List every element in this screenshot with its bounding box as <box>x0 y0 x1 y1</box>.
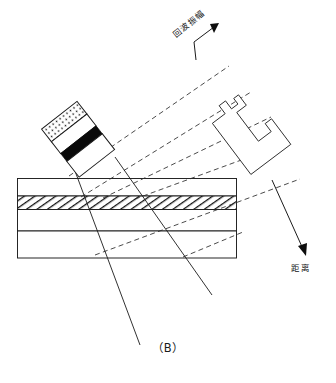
distance-axis-line <box>272 180 303 249</box>
angle-beam-probe <box>42 101 115 177</box>
echo-axis-arrowhead <box>210 23 219 33</box>
distance-axis-label: 距离 <box>291 261 310 273</box>
ultrasonic-inspection-figure: 回波振幅 距离 （B） <box>0 0 336 383</box>
a-scan-waveform <box>206 85 290 174</box>
plate-top-layer <box>18 179 237 197</box>
distance-axis-arrowhead <box>298 243 307 256</box>
plate-flaw-hatched-layer <box>18 196 237 210</box>
figure-canvas <box>0 0 336 383</box>
plate-bottom-layer <box>18 231 237 258</box>
distance-axis <box>272 180 307 256</box>
waveform-outline <box>206 85 290 174</box>
test-plate-group <box>18 179 237 259</box>
plate-mid-layer <box>18 210 237 232</box>
panel-caption: （B） <box>0 339 336 355</box>
echo-axis-line <box>194 27 214 60</box>
echo-amplitude-axis <box>194 23 219 60</box>
